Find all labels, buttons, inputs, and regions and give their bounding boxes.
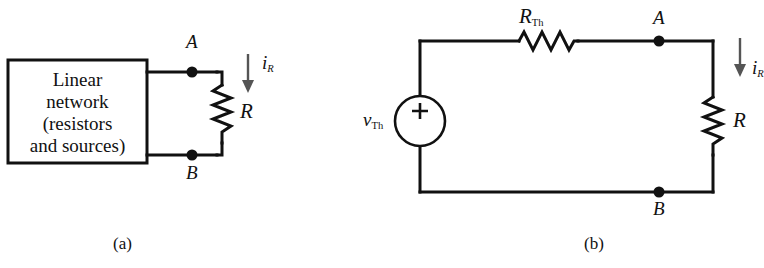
circuit-figure: Linear network (resistors and sources) A… xyxy=(0,0,764,268)
series-resistor-subscript-th: Th xyxy=(532,17,544,28)
series-resistor-label-rth: RTh xyxy=(519,6,544,28)
current-subscript-r-b: R xyxy=(757,68,763,79)
linear-network-line-1: Linear xyxy=(8,69,147,91)
linear-network-line-4: and sources) xyxy=(8,135,147,157)
node-dot-b xyxy=(187,150,198,161)
current-arrow-head-b xyxy=(734,64,746,77)
panel-b-group xyxy=(395,32,746,198)
wire-a-top-to-resistor xyxy=(217,72,222,85)
linear-network-line-3: (resistors xyxy=(8,113,147,135)
current-subscript-r-a: R xyxy=(267,63,273,74)
node-label-a: A xyxy=(186,32,198,51)
resistor-r-zigzag-b xyxy=(704,97,722,155)
node-dot-a xyxy=(187,67,198,78)
node-dot-b-b xyxy=(654,187,665,198)
resistor-label-r-a: R xyxy=(240,101,253,122)
resistor-r-zigzag-a xyxy=(213,85,231,143)
node-label-b-b: B xyxy=(653,199,665,218)
wire-a-bottom-to-resistor xyxy=(217,143,222,155)
node-label-b: B xyxy=(186,163,198,182)
resistor-label-r-b: R xyxy=(733,110,746,131)
node-dot-a-b xyxy=(654,36,665,47)
current-label-ir-b: iR xyxy=(752,58,764,80)
series-resistor-symbol-r: R xyxy=(519,4,532,28)
source-subscript-th: Th xyxy=(371,120,383,131)
current-arrow-head-a xyxy=(242,80,254,93)
linear-network-line-2: network xyxy=(8,91,147,113)
resistor-rth-zigzag xyxy=(519,32,578,50)
current-label-ir-a: iR xyxy=(262,53,274,75)
caption-a: (a) xyxy=(113,235,132,252)
caption-b: (b) xyxy=(584,235,604,252)
source-label-vth: vTh xyxy=(363,110,383,131)
linear-network-box-text: Linear network (resistors and sources) xyxy=(8,69,147,157)
node-label-a-b: A xyxy=(653,8,665,27)
